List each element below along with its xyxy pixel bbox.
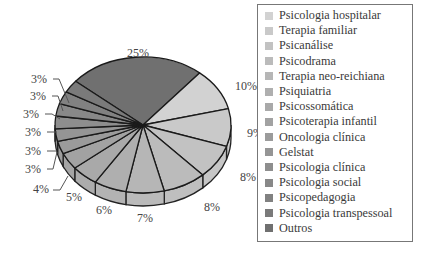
legend-label: Gelstat [279, 145, 314, 160]
legend-label: Psicologia hospitalar [279, 8, 381, 23]
legend-label: Psicodrama [279, 54, 336, 69]
legend-item-psicanalise: Psicanálise [265, 38, 412, 53]
pct-label-psicossom-tica: 5% [66, 190, 82, 204]
pie-slices [55, 57, 231, 193]
legend-swatch [265, 57, 273, 65]
legend-label: Outros [279, 221, 312, 236]
legend-item-gelstat: Gelstat [265, 145, 412, 160]
legend-item-psicossomatica: Psicossomática [265, 99, 412, 114]
legend-item-psicoterapia-infantil: Psicoterapia infantil [265, 114, 412, 129]
pct-label-psican-lise: 8% [240, 170, 256, 184]
legend-swatch [265, 42, 273, 50]
legend-label: Psicologia clínica [279, 160, 365, 175]
pct-label-terapia-neo-reichiana: 7% [137, 211, 153, 225]
pct-label-outros: 25% [127, 46, 149, 60]
legend-label: Psicologia transpessoal [279, 206, 392, 221]
legend-label: Psicossomática [279, 99, 353, 114]
pct-label-psicoterapia-infantil: 4% [33, 182, 49, 196]
legend-label: Psicopedagogia [279, 190, 356, 205]
legend-item-psicopedagogia: Psicopedagogia [265, 190, 412, 205]
legend-item-psicologia-hospitalar: Psicologia hospitalar [265, 8, 412, 23]
legend-item-outros: Outros [265, 221, 412, 236]
legend-swatch [265, 163, 273, 171]
legend-item-psicologia-social: Psicologia social [265, 175, 412, 190]
pct-label-psicologia-transpessoal: 3% [31, 72, 47, 86]
legend-item-psicodrama: Psicodrama [265, 54, 412, 69]
legend-item-terapia-neo-reichiana: Terapia neo-reichiana [265, 69, 412, 84]
legend-item-terapia-familiar: Terapia familiar [265, 23, 412, 38]
legend-swatch [265, 209, 273, 217]
legend-swatch [265, 103, 273, 111]
legend-swatch [265, 133, 273, 141]
pct-label-gelstat: 3% [25, 144, 41, 158]
legend-item-oncologia-clinica: Oncologia clínica [265, 130, 412, 145]
legend-swatch [265, 148, 273, 156]
pct-label-psicologia-cl-nica: 3% [25, 125, 41, 139]
legend-swatch [265, 194, 273, 202]
pct-label-psicopedagogia: 3% [30, 89, 46, 103]
legend-swatch [265, 27, 273, 35]
pct-label-psicodrama: 8% [204, 200, 220, 214]
legend-label: Psiquiatria [279, 84, 331, 99]
pct-label-psicologia-hospitalar: 10% [235, 79, 257, 93]
leader-line [47, 152, 57, 169]
legend-swatch [265, 72, 273, 80]
legend-item-psiquiatria: Psiquiatria [265, 84, 412, 99]
legend-swatch [265, 118, 273, 126]
legend-swatch [265, 12, 273, 20]
legend-item-psicologia-clinica: Psicologia clínica [265, 160, 412, 175]
pct-label-psicologia-social: 3% [23, 107, 39, 121]
legend: Psicologia hospitalar Terapia familiar P… [257, 4, 413, 242]
legend-label: Terapia neo-reichiana [279, 69, 385, 84]
legend-item-psicologia-transpessoal: Psicologia transpessoal [265, 205, 412, 220]
leader-line [53, 176, 68, 190]
legend-label: Terapia familiar [279, 23, 357, 38]
legend-label: Psicologia social [279, 175, 361, 190]
legend-swatch [265, 179, 273, 187]
pct-label-psiquiatria: 6% [96, 203, 112, 217]
legend-swatch [265, 88, 273, 96]
legend-label: Psicanálise [279, 38, 333, 53]
legend-swatch [265, 224, 273, 232]
legend-label: Oncologia clínica [279, 130, 365, 145]
legend-label: Psicoterapia infantil [279, 114, 377, 129]
pct-label-oncologia-cl-nica: 3% [25, 162, 41, 176]
